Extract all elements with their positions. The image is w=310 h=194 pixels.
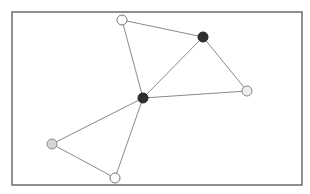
node-n2	[198, 32, 208, 42]
node-n3	[242, 86, 252, 96]
graph-diagram	[0, 0, 310, 194]
edge-n5-n6	[52, 144, 115, 178]
edge-n1-n4	[122, 20, 143, 98]
node-n5	[47, 139, 57, 149]
diagram-frame	[12, 12, 302, 185]
edge-n1-n2	[122, 20, 203, 37]
edge-n4-n3	[143, 91, 247, 98]
node-n4	[138, 93, 148, 103]
edge-n2-n4	[143, 37, 203, 98]
node-n1	[117, 15, 127, 25]
edge-n2-n3	[203, 37, 247, 91]
node-n6	[110, 173, 120, 183]
edges-layer	[52, 20, 247, 178]
graph-canvas	[0, 0, 310, 194]
